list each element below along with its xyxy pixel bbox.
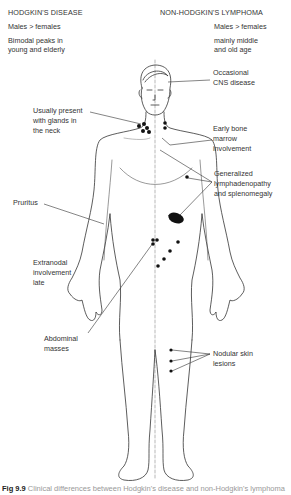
leader-pruritus [44,204,104,224]
neck-glands-line2: with glands in [33,117,77,126]
node-skin-1 [169,348,172,351]
lymph-line1: Generalized [214,170,253,179]
hodgkins-title: HODGKIN'S DISEASE [8,9,83,18]
node-axilla [185,175,189,179]
pruritus-label: Pruritus [13,199,38,208]
skin-lesions-line2: lesions [213,360,235,369]
legs-outline [119,340,155,481]
leader-abdominal [88,243,153,333]
neck-glands-line3: the neck [33,127,60,136]
nhl-sex-ratio: Males > females [214,23,267,32]
node-abdominal [151,238,155,242]
leader-bone-marrow [162,138,212,145]
hodgkins-age-line2: young and elderly [8,46,65,55]
extranodal-line3: late [33,279,45,288]
nhl-title: NON-HODGKIN'S LYMPHOMA [160,9,263,18]
bone-marrow-line1: Early bone [213,125,247,134]
abdominal-line1: Abdominal [44,335,78,344]
extranodal-line2: involvement [33,269,71,278]
cns-line1: Occasional [213,69,249,78]
bone-marrow-line2: marrow [213,135,237,144]
figure-caption: Fig 9.9 Clinical differences between Hod… [2,484,285,493]
head-outline [141,65,171,115]
node-neck-hd [137,124,141,128]
node-skin-2 [169,359,172,362]
leader-neck [90,112,141,124]
node-neck-nhl [163,121,167,125]
hodgkins-sex-ratio: Males > females [8,23,61,32]
leader-lymph-3 [180,182,212,215]
nhl-age-line2: and old age [214,46,252,55]
figure-caption-label: Fig 9.9 [2,484,26,493]
leader-cns [168,80,210,82]
node-skin-3 [169,369,172,372]
extranodal-line1: Extranodal [33,259,67,268]
cns-line2: CNS disease [213,79,255,88]
lymph-line2: lymphadenopathy [214,180,271,189]
figure-caption-text: Clinical differences between Hodgkin's d… [28,484,285,493]
bone-marrow-line3: involvement [213,145,251,154]
neck-glands-line1: Usually present [33,107,83,116]
abdominal-line2: masses [44,345,69,354]
lymph-line3: and splenomegaly [214,190,272,199]
skin-lesions-line1: Nodular skin [213,350,253,359]
